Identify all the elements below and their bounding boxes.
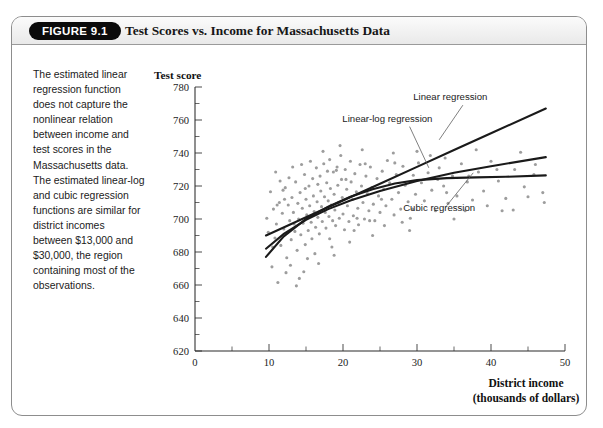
curve-label: Linear regression	[413, 91, 487, 102]
scatter-point	[308, 204, 311, 207]
scatter-point	[513, 168, 516, 171]
scatter-point	[373, 219, 376, 222]
scatter-point	[270, 265, 273, 268]
scatter-point	[316, 200, 319, 203]
scatter-point	[526, 195, 529, 198]
scatter-point	[475, 148, 478, 151]
scatter-point	[304, 187, 307, 190]
scatter-point	[307, 184, 310, 187]
scatter-point	[543, 201, 546, 204]
scatter-point	[269, 190, 272, 193]
curve-label: Cubic regression	[403, 202, 475, 213]
scatter-point	[333, 254, 336, 257]
scatter-point	[320, 205, 323, 208]
scatter-point	[356, 217, 359, 220]
scatter-point	[304, 243, 307, 246]
scatter-point	[386, 159, 389, 162]
scatter-point	[346, 204, 349, 207]
scatter-point	[482, 189, 485, 192]
scatter-point	[276, 281, 279, 284]
scatter-point	[288, 219, 291, 222]
scatter-point	[358, 163, 361, 166]
scatter-point	[285, 256, 288, 259]
scatter-point	[292, 211, 295, 214]
regression-curves-group	[266, 109, 546, 257]
scatter-point	[497, 180, 500, 183]
scatter-point	[333, 208, 336, 211]
x-tick-label: 0	[192, 357, 197, 368]
scatter-point	[444, 156, 447, 159]
scatter-point	[356, 207, 359, 210]
scatter-point	[409, 217, 412, 220]
scatter-point	[363, 217, 366, 220]
scatter-point	[401, 221, 404, 224]
y-tick-label: 740	[173, 148, 189, 159]
scatter-point	[353, 172, 356, 175]
scatter-point	[352, 214, 355, 217]
scatter-point	[326, 170, 329, 173]
scatter-point	[427, 171, 430, 174]
scatter-point	[322, 162, 325, 165]
scatter-point	[296, 249, 299, 252]
scatter-point	[307, 229, 310, 232]
y-tick-label: 640	[173, 313, 189, 324]
scatter-point	[328, 237, 331, 240]
scatter-point	[384, 204, 387, 207]
scatter-point	[316, 183, 319, 186]
scatter-point	[445, 191, 448, 194]
scatter-point	[345, 188, 348, 191]
scatter-point	[430, 189, 433, 192]
scatter-point	[486, 204, 489, 207]
curve-label: Linear-log regression	[342, 113, 432, 124]
x-tick-label: 50	[560, 357, 571, 368]
scatter-point	[265, 217, 268, 220]
scatter-point	[420, 181, 423, 184]
scatter-point	[341, 196, 344, 199]
scatter-point	[408, 229, 411, 232]
scatter-point	[325, 181, 328, 184]
scatter-point	[338, 217, 341, 220]
scatter-point	[477, 170, 480, 173]
scatter-point	[368, 219, 371, 222]
y-tick-label: 760	[173, 115, 189, 126]
scatter-point	[360, 184, 363, 187]
scatter-point	[328, 158, 331, 161]
scatter-point	[282, 189, 285, 192]
scatter-point	[309, 160, 312, 163]
scatter-point	[279, 180, 282, 183]
scatter-point	[347, 220, 350, 223]
scatter-point	[294, 180, 297, 183]
scatter-point	[343, 228, 346, 231]
scatter-point	[302, 270, 305, 273]
scatter-point	[541, 191, 544, 194]
scatter-point	[303, 173, 306, 176]
scatter-point	[501, 209, 504, 212]
scatter-point	[311, 177, 314, 180]
scatter-point	[317, 262, 320, 265]
scatter-point	[452, 217, 455, 220]
scatter-point	[372, 203, 375, 206]
y-tick-label: 720	[173, 181, 189, 192]
y-axis-title: Test score	[154, 69, 201, 81]
scatter-point	[369, 165, 372, 168]
scatter-point	[401, 165, 404, 168]
scatter-point	[489, 160, 492, 163]
scatter-point	[306, 257, 309, 260]
scatter-point	[291, 165, 294, 168]
scatter-point	[319, 175, 322, 178]
scatter-point	[284, 186, 287, 189]
x-axis-title: District income	[461, 376, 591, 391]
scatter-point	[310, 221, 313, 224]
scatter-point	[415, 150, 418, 153]
scatter-point	[293, 230, 296, 233]
x-tick-label: 30	[412, 357, 423, 368]
scatter-point	[314, 226, 317, 229]
scatter-point	[304, 198, 307, 201]
scatter-point	[281, 212, 284, 215]
scatter-point	[338, 144, 341, 147]
scatter-point	[336, 165, 339, 168]
y-tick-label: 660	[173, 280, 189, 291]
scatter-point	[313, 252, 316, 255]
scatter-point	[399, 208, 402, 211]
scatter-point	[301, 207, 304, 210]
